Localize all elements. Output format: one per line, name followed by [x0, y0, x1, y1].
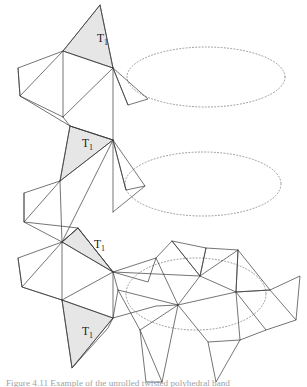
polyhedral-helix-diagram: T1T1T1T1 — [0, 0, 307, 387]
strip-seg-c5 — [62, 272, 113, 300]
label-t1-fourth-subscript: 1 — [89, 331, 93, 340]
shaded-triangle-3 — [62, 228, 113, 272]
strip-seg-b4 — [60, 181, 62, 242]
shaded-triangle-group — [60, 5, 113, 368]
cross-section-ellipse-1 — [127, 47, 285, 107]
unroll-6 — [270, 276, 300, 320]
mesh-edge-group — [18, 5, 300, 382]
strip-seg-c3 — [18, 258, 62, 300]
strip-seg-a2 — [18, 51, 63, 96]
strip-seg-b2 — [24, 181, 60, 222]
unroll-12 — [208, 340, 240, 382]
figure-caption: Figure 4.11 Example of the unrolled twis… — [6, 378, 307, 387]
label-t1-second-subscript: 1 — [89, 143, 93, 152]
unroll-9 — [118, 290, 178, 330]
strip-seg-a10 — [20, 96, 70, 126]
strip-seg-b9 — [24, 222, 78, 228]
unroll-19 — [200, 248, 206, 276]
figure-caption-row: Figure 4.11 Example of the unrolled twis… — [0, 378, 307, 387]
strip-seg-c2 — [18, 242, 62, 287]
unroll-16 — [266, 320, 296, 330]
label-t1-top-subscript: 1 — [104, 38, 108, 47]
shaded-triangle-1 — [63, 5, 113, 68]
strip-seg-c9 — [22, 287, 62, 300]
unroll-4 — [200, 250, 238, 292]
strip-seg-a9 — [113, 68, 128, 105]
unroll-7 — [236, 292, 266, 340]
cross-section-ellipse-2 — [125, 152, 281, 216]
strip-seg-a3 — [18, 68, 63, 117]
cross-section-ellipse-3 — [126, 258, 266, 330]
unroll-5 — [236, 250, 270, 292]
unroll-17 — [206, 248, 238, 250]
triangle-label-group: T1T1T1T1 — [82, 32, 108, 340]
strip-seg-a8 — [113, 68, 148, 105]
shaded-triangle-2 — [60, 126, 113, 181]
unroll-15 — [236, 290, 270, 292]
unroll-8 — [178, 305, 240, 342]
unroll-10 — [140, 305, 178, 382]
cross-section-ellipse-group — [125, 47, 285, 330]
unroll-2 — [156, 241, 200, 305]
figure-container: T1T1T1T1 Figure 4.11 Example of the unro… — [0, 0, 307, 387]
strip-seg-b11 — [113, 186, 145, 212]
strip-seg-a5 — [63, 68, 113, 117]
unroll-18 — [113, 290, 118, 318]
strip-seg-b8 — [113, 140, 126, 190]
label-t1-third-subscript: 1 — [101, 244, 105, 253]
